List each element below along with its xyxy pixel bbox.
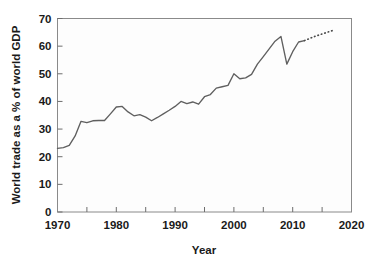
- x-tick-label-2020: 2020: [339, 219, 365, 231]
- y-tick-label-60: 60: [39, 40, 52, 52]
- y-axis-title: World trade as a % of world GDP: [10, 25, 22, 204]
- x-axis-title: Year: [192, 244, 217, 256]
- y-tick-label-30: 30: [39, 123, 52, 135]
- y-tick-label-50: 50: [39, 68, 52, 80]
- y-tick-label-20: 20: [39, 151, 52, 163]
- y-tick-label-40: 40: [39, 95, 52, 107]
- line-chart-svg: 010203040506070 197019801990200020102020…: [0, 0, 381, 262]
- x-tick-label-2000: 2000: [221, 219, 247, 231]
- chart-figure: 010203040506070 197019801990200020102020…: [0, 0, 381, 262]
- x-tick-label-1990: 1990: [162, 219, 188, 231]
- y-tick-label-70: 70: [39, 13, 52, 25]
- x-tick-label-1980: 1980: [104, 219, 130, 231]
- y-tick-label-10: 10: [39, 178, 52, 190]
- x-tick-label-2010: 2010: [280, 219, 306, 231]
- y-tick-label-0: 0: [45, 206, 51, 218]
- x-tick-label-1970: 1970: [45, 219, 71, 231]
- plot-area-frame: [58, 19, 352, 213]
